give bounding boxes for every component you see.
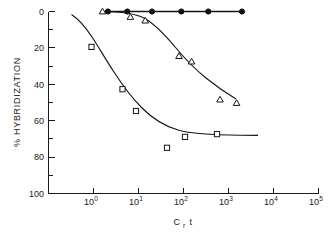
axes-group (49, 12, 319, 194)
x-tick-label-1e3: 10 3 (219, 195, 233, 207)
svg-text:% HYBRIDIZATION: % HYBRIDIZATION (12, 57, 22, 147)
svg-text:5: 5 (319, 195, 323, 202)
data-point-open-square (214, 132, 219, 137)
svg-text:10: 10 (129, 197, 139, 207)
y-axis-tick-labels: 0 20 40 60 80 100 (29, 7, 44, 199)
svg-text:10: 10 (309, 197, 319, 207)
svg-text:10: 10 (219, 197, 229, 207)
data-point-filled-circle (206, 9, 211, 14)
svg-text:3: 3 (229, 195, 233, 202)
svg-text:1: 1 (139, 195, 143, 202)
data-point-open-square (120, 87, 125, 92)
svg-text:10: 10 (264, 197, 274, 207)
x-tick-label-1e1: 10 1 (129, 195, 143, 207)
y-tick-label-60: 60 (34, 116, 44, 126)
data-point-filled-circle (179, 9, 184, 14)
data-point-filled-circle (125, 9, 130, 14)
x-tick-label-1e0: 10 0 (84, 195, 98, 207)
data-point-open-square (164, 145, 169, 150)
y-tick-label-80: 80 (34, 152, 44, 162)
data-point-open-square (89, 44, 94, 49)
chart-plot-area: 0 20 40 60 80 100 10 0 10 1 10 2 10 3 (0, 0, 333, 236)
x-tick-label-1e2: 10 2 (174, 195, 188, 207)
svg-text:t: t (189, 217, 192, 227)
y-tick-label-40: 40 (34, 80, 44, 90)
svg-text:r: r (183, 222, 186, 229)
svg-text:0: 0 (94, 195, 98, 202)
series-open-triangle-curve (103, 12, 237, 100)
y-tick-label-20: 20 (34, 43, 44, 53)
svg-text:10: 10 (174, 197, 184, 207)
data-point-open-triangle (233, 100, 240, 106)
series-open-square-curve (72, 15, 259, 136)
data-point-open-square (133, 108, 138, 113)
y-axis-minor-ticks (49, 30, 54, 176)
data-point-open-triangle (217, 96, 224, 102)
data-point-open-triangle (188, 58, 195, 64)
data-point-filled-circle (149, 9, 154, 14)
data-point-filled-circle (105, 9, 110, 14)
y-tick-label-100: 100 (29, 189, 44, 199)
series-open-square-markers (89, 44, 220, 150)
x-axis-tick-labels: 10 0 10 1 10 2 10 3 10 4 10 5 (84, 195, 323, 207)
data-point-open-square (182, 134, 187, 139)
svg-text:C: C (173, 217, 180, 227)
hybridization-chart-figure: 0 20 40 60 80 100 10 0 10 1 10 2 10 3 (0, 0, 333, 236)
data-point-filled-circle (239, 9, 244, 14)
x-tick-label-1e5: 10 5 (309, 195, 323, 207)
svg-text:4: 4 (274, 195, 278, 202)
x-axis-title: C r t (173, 217, 192, 229)
y-axis-title: % HYBRIDIZATION (12, 57, 22, 147)
x-axis-ticks (94, 188, 319, 194)
y-tick-label-0: 0 (39, 7, 44, 17)
svg-text:10: 10 (84, 197, 94, 207)
svg-text:2: 2 (184, 195, 188, 202)
x-tick-label-1e4: 10 4 (264, 195, 278, 207)
